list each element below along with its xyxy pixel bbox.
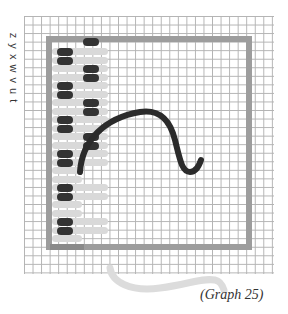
- graph-caption: (Graph 25): [200, 287, 263, 303]
- main-curve: [80, 112, 201, 172]
- curves: [0, 0, 288, 314]
